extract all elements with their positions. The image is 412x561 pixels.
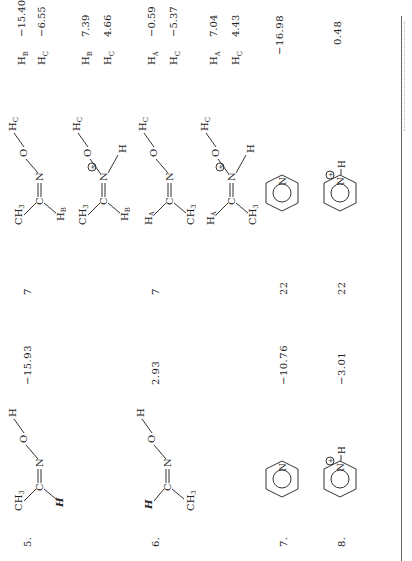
svg-text:H: H xyxy=(245,144,256,153)
svg-text:+: + xyxy=(327,458,335,464)
pyridinium-structure-protonated-col: N H + xyxy=(320,155,364,215)
svg-text:N: N xyxy=(336,177,346,185)
svg-text:N: N xyxy=(226,172,237,181)
shift-label: HB xyxy=(16,51,30,65)
svg-text:C: C xyxy=(98,197,109,205)
shift-value: −6.55 xyxy=(36,6,47,37)
shift-label: HA xyxy=(146,51,160,65)
shift-label: HC xyxy=(36,51,50,65)
svg-text:O: O xyxy=(210,149,221,157)
neutral-value: −15.93 xyxy=(22,345,33,385)
pyridine-structure-protonated-col: N xyxy=(264,165,304,215)
row-number: 5. xyxy=(22,536,33,547)
svg-text:C: C xyxy=(34,483,45,491)
shift-label: HC xyxy=(168,51,182,65)
oxime-structure-5: CH3 CN OH H xyxy=(8,381,64,511)
row-number: 8. xyxy=(336,536,347,547)
svg-text:HC: HC xyxy=(137,117,150,131)
neutral-value: −3.01 xyxy=(336,352,347,385)
svg-text:N: N xyxy=(34,458,45,467)
svg-text:N: N xyxy=(336,463,346,471)
svg-text:C: C xyxy=(162,483,173,491)
table-row: 8. N H + −3.01 22 N H + 0.48 xyxy=(336,0,396,561)
protonated-cation-structure-6: HA CN OHC CH3 H + xyxy=(198,85,260,225)
svg-text:HC: HC xyxy=(199,117,212,131)
svg-text:H: H xyxy=(117,144,128,153)
neutral-value: 2.93 xyxy=(150,361,161,385)
table-bottom-rule xyxy=(401,16,402,561)
right-value: −16.98 xyxy=(274,15,285,55)
table-row: CH3 CN OHC HB H + HB 7.39 HC 4.66 xyxy=(80,0,140,561)
svg-text:HA: HA xyxy=(205,210,218,225)
svg-text:HB: HB xyxy=(55,207,66,221)
pyridine-structure: N xyxy=(264,451,304,501)
shift-label: HC xyxy=(230,51,244,65)
svg-text:N: N xyxy=(164,172,175,181)
shift-value: −5.37 xyxy=(168,6,179,37)
svg-text:H: H xyxy=(337,446,347,454)
svg-text:O: O xyxy=(18,435,29,443)
svg-text:C: C xyxy=(34,197,45,205)
svg-text:+: + xyxy=(327,172,335,178)
shift-value: 7.39 xyxy=(80,15,91,37)
protonated-structure-5: CH3 CN OHC HB xyxy=(6,85,66,225)
footnote-fragment xyxy=(404,21,411,131)
svg-text:CH3: CH3 xyxy=(185,204,196,225)
right-value: 0.48 xyxy=(332,21,343,45)
svg-text:+: + xyxy=(217,164,225,170)
pyridinium-structure: N H + xyxy=(320,441,364,501)
svg-text:C: C xyxy=(226,197,237,205)
svg-text:N: N xyxy=(162,458,173,467)
svg-text:O: O xyxy=(82,149,93,157)
svg-text:H: H xyxy=(337,160,347,168)
row-number: 6. xyxy=(150,536,161,547)
svg-text:N: N xyxy=(278,177,288,185)
shift-value: 7.04 xyxy=(208,15,219,37)
svg-text:+: + xyxy=(89,164,97,170)
shift-value: 4.43 xyxy=(230,15,241,37)
oxime-structure-6: H CN OH CH3 xyxy=(136,381,196,511)
protonated-structure-6: HA CN OHC CH3 xyxy=(136,85,196,225)
svg-text:O: O xyxy=(18,149,29,157)
reference: 7 xyxy=(150,288,161,295)
svg-text:H: H xyxy=(8,408,18,417)
svg-text:H: H xyxy=(54,497,64,508)
shift-value: −15.40 xyxy=(16,0,27,37)
svg-text:N: N xyxy=(34,172,45,181)
svg-text:HA: HA xyxy=(143,210,156,225)
svg-text:O: O xyxy=(146,435,157,443)
table-row: HA CN OHC CH3 H + HA 7.04 HC 4.43 xyxy=(212,0,272,561)
neutral-value: −10.76 xyxy=(278,345,289,385)
svg-text:H: H xyxy=(143,499,154,510)
svg-text:HC: HC xyxy=(71,117,84,131)
reference: 7 xyxy=(22,288,33,295)
svg-text:H: H xyxy=(136,408,146,417)
row-number: 7. xyxy=(278,536,289,547)
shift-value: 4.66 xyxy=(102,15,113,37)
svg-text:N: N xyxy=(278,463,288,471)
svg-text:O: O xyxy=(148,149,159,157)
reference: 22 xyxy=(336,281,347,295)
shift-value: −0.59 xyxy=(146,6,157,37)
svg-text:HC: HC xyxy=(7,117,20,131)
svg-text:CH3: CH3 xyxy=(185,490,196,511)
reference: 22 xyxy=(278,281,289,295)
rotated-table-page: 5. CH3 CN OH H −15.93 7 CH3 xyxy=(0,0,412,561)
svg-text:N: N xyxy=(98,172,109,181)
shift-label: HA xyxy=(208,51,222,65)
protonated-cation-structure: CH3 CN OHC HB H + xyxy=(70,85,130,225)
svg-text:CH3: CH3 xyxy=(247,204,260,225)
shift-label: HC xyxy=(102,51,116,65)
shift-label: HB xyxy=(80,51,94,65)
svg-text:C: C xyxy=(164,197,175,205)
svg-text:HB: HB xyxy=(119,207,130,221)
